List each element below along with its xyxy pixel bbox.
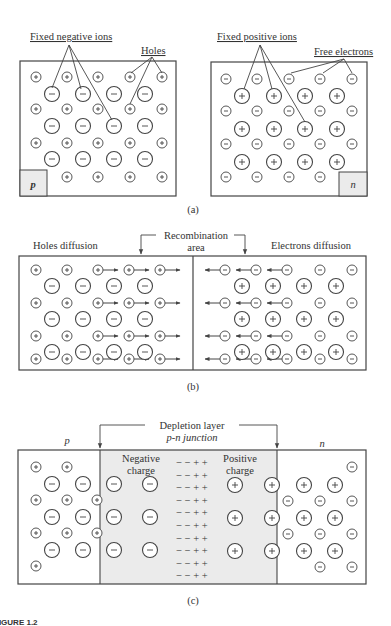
negative-ion-icon xyxy=(45,477,60,492)
hole-icon xyxy=(31,265,41,275)
p-type-crystal: p Fixed negative ions Holes xyxy=(20,31,176,196)
positive-ion-icon xyxy=(266,312,281,327)
positive-ion-icon xyxy=(298,155,313,170)
negative-ion-icon xyxy=(138,87,153,102)
free-electron-icon xyxy=(315,106,325,116)
junction-charge-row: − − + + xyxy=(176,520,208,531)
negative-ion-icon xyxy=(138,312,153,327)
recombination-label-line1: Recombination xyxy=(164,230,229,241)
fixed-positive-ions-group xyxy=(235,89,345,170)
hole-icon xyxy=(92,528,102,538)
electron-icon xyxy=(283,529,293,539)
positive-ion-icon xyxy=(267,155,282,170)
hole-icon xyxy=(124,354,134,364)
positive-ion-icon xyxy=(265,478,280,493)
fixed-negative-ions-label: Fixed negative ions xyxy=(30,31,112,42)
hole-icon xyxy=(62,265,72,275)
hole-icon xyxy=(62,298,72,308)
p-side-carriers xyxy=(31,265,180,364)
hole-icon xyxy=(155,354,165,364)
negative-ion-icon xyxy=(76,345,91,360)
positive-ion-icon xyxy=(328,478,343,493)
hole-icon xyxy=(62,462,72,472)
electron-icon xyxy=(347,331,357,341)
electron-icon xyxy=(347,496,357,506)
negative-ion-icon xyxy=(76,543,91,558)
negative-ion-icon xyxy=(107,345,122,360)
free-electron-icon xyxy=(347,74,357,84)
n-type-crystal: n Fixed positive ions Free electrons xyxy=(211,31,373,196)
positive-ion-icon xyxy=(235,312,250,327)
electron-icon xyxy=(220,298,230,308)
hole-icon xyxy=(62,495,72,505)
negative-ion-icon xyxy=(107,543,122,558)
hole-icon xyxy=(124,265,134,275)
hole-icon xyxy=(31,561,41,571)
electron-icon xyxy=(282,331,292,341)
free-electron-icon xyxy=(252,74,262,84)
hole-icon xyxy=(93,72,103,82)
negative-ion-icon xyxy=(45,543,60,558)
positive-ion-icon xyxy=(297,511,312,526)
negative-ion-icon xyxy=(107,119,122,134)
negative-ion-icon xyxy=(76,119,91,134)
electron-icon xyxy=(220,265,230,275)
free-electron-icon xyxy=(221,139,231,149)
free-electron-icon xyxy=(221,106,231,116)
positive-ion-icon xyxy=(298,122,313,137)
electron-icon xyxy=(347,529,357,539)
free-electron-icon xyxy=(347,139,357,149)
positive-ion-icon xyxy=(329,345,344,360)
holes-diffusion-label: Holes diffusion xyxy=(33,240,99,251)
negative-ion-icon xyxy=(107,279,122,294)
hole-icon xyxy=(93,265,103,275)
electron-icon xyxy=(251,354,261,364)
positive-ion-icon xyxy=(235,279,250,294)
positive-charge-label-2: charge xyxy=(226,465,254,476)
positive-ion-icon xyxy=(228,511,243,526)
junction-charge-row: − − + + xyxy=(176,495,208,506)
positive-ion-icon xyxy=(235,89,250,104)
positive-ion-icon xyxy=(328,511,343,526)
positive-ion-icon xyxy=(265,511,280,526)
positive-ion-icon xyxy=(265,544,280,559)
negative-ion-icon xyxy=(76,279,91,294)
negative-charge-label-2: charge xyxy=(127,465,155,476)
n-region-label: n xyxy=(350,179,355,190)
positive-ion-icon xyxy=(330,89,345,104)
holes-label: Holes xyxy=(141,45,166,56)
panel-a: p Fixed negative ions Holes n xyxy=(20,31,373,216)
panel-b-caption: (b) xyxy=(187,381,200,393)
hole-icon xyxy=(31,138,41,148)
hole-icon xyxy=(31,298,41,308)
positive-charge-label-1: Positive xyxy=(223,453,257,464)
electron-icon xyxy=(251,298,261,308)
electron-icon xyxy=(347,298,357,308)
hole-icon xyxy=(155,331,165,341)
hole-icon xyxy=(157,172,167,182)
electron-icon xyxy=(315,562,325,572)
hole-icon xyxy=(93,172,103,182)
junction-charge-row: − − + + xyxy=(176,558,208,569)
electron-icon xyxy=(315,265,325,275)
electrons-diffusion-label: Electrons diffusion xyxy=(271,240,352,251)
figure-caption: FIGURE 1.2 xyxy=(0,618,38,626)
junction-charge-row: − − + + xyxy=(176,545,208,556)
electron-icon xyxy=(220,331,230,341)
negative-ion-icon xyxy=(138,279,153,294)
free-electron-icon xyxy=(315,139,325,149)
electron-icon xyxy=(315,298,325,308)
pn-junction-diagram: p Fixed negative ions Holes n xyxy=(0,0,391,626)
electron-icon xyxy=(347,462,357,472)
positive-ion-icon xyxy=(266,279,281,294)
electron-icon xyxy=(251,331,261,341)
positive-ion-icon xyxy=(297,279,312,294)
free-electron-icon xyxy=(284,139,294,149)
negative-ion-icon xyxy=(45,510,60,525)
junction-charge-row: − − + + xyxy=(176,533,208,544)
hole-icon xyxy=(155,298,165,308)
free-electron-icon xyxy=(347,106,357,116)
hole-icon xyxy=(93,104,103,114)
negative-ion-icon xyxy=(107,312,122,327)
positive-ion-icon xyxy=(235,155,250,170)
